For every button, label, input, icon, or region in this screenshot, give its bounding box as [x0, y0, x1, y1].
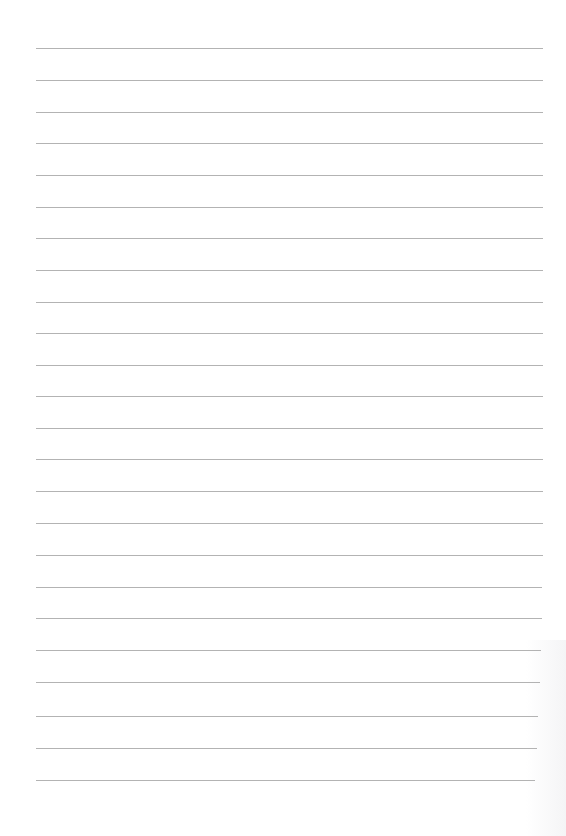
ruled-line — [36, 682, 540, 683]
ruled-line — [36, 270, 543, 271]
ruled-line — [36, 80, 543, 81]
ruled-line — [36, 207, 543, 208]
ruled-line — [36, 716, 538, 717]
ruled-line — [36, 459, 543, 460]
ruled-line — [36, 555, 543, 556]
ruled-line — [36, 48, 543, 49]
ruled-line — [36, 618, 542, 619]
ruled-line — [36, 302, 543, 303]
ruled-line — [36, 143, 543, 144]
page-edge-shadow — [526, 640, 566, 836]
ruled-line — [36, 333, 543, 334]
ruled-line — [36, 365, 543, 366]
ruled-line — [36, 238, 543, 239]
lined-paper-page — [0, 0, 566, 836]
ruled-line — [36, 650, 541, 651]
ruled-line — [36, 175, 543, 176]
ruled-line — [36, 428, 543, 429]
ruled-line — [36, 396, 543, 397]
ruled-line — [36, 780, 535, 781]
ruled-line — [36, 112, 543, 113]
ruled-line — [36, 491, 543, 492]
ruled-line — [36, 748, 537, 749]
ruled-line — [36, 523, 543, 524]
ruled-line — [36, 587, 542, 588]
